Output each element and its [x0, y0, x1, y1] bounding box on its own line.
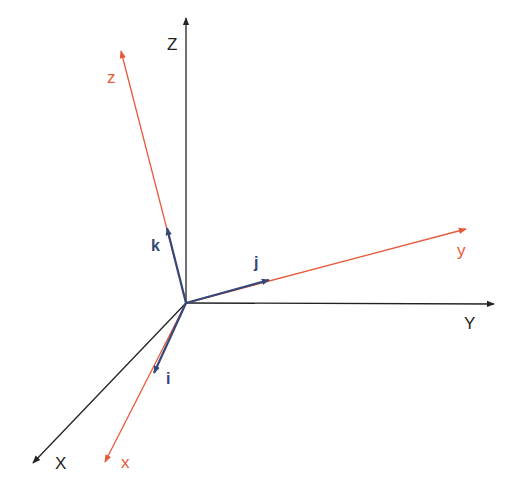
unit-vector-k-arrow	[167, 228, 186, 303]
unit-vector-j-arrow	[186, 280, 269, 303]
world-axis-z-label: Z	[167, 35, 177, 54]
labels: X Y Z x y z i j k	[55, 35, 475, 473]
world-axis-x-label: X	[55, 454, 66, 473]
unit-vectors	[154, 228, 269, 373]
unit-vector-i-arrow	[154, 303, 186, 373]
body-axis-z-label: z	[107, 68, 116, 87]
body-axis-y-label: y	[457, 241, 466, 260]
unit-vector-i-label: i	[166, 370, 170, 387]
coordinate-diagram: X Y Z x y z i j k	[0, 0, 515, 489]
world-axis-y-arrow	[186, 303, 494, 304]
unit-vector-j-label: j	[253, 254, 258, 271]
body-axes	[105, 51, 466, 462]
world-axis-x-arrow	[33, 303, 186, 463]
body-axis-x-label: x	[121, 453, 130, 472]
unit-vector-k-label: k	[151, 237, 160, 254]
world-axis-y-label: Y	[464, 314, 475, 333]
body-axis-x-arrow	[105, 303, 186, 462]
